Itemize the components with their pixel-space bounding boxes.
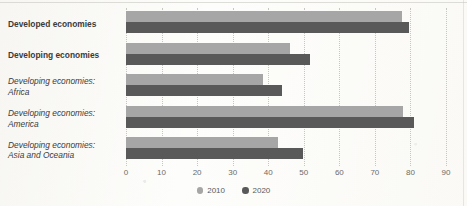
x-tick-20: 20	[193, 168, 202, 177]
category-label-text: Developing economies:America	[8, 108, 95, 129]
chart-legend: 20102020	[0, 186, 467, 195]
x-tick-10: 10	[157, 168, 166, 177]
category-label: Developing economies:America	[8, 103, 122, 135]
x-tick-70: 70	[370, 168, 379, 177]
bar-2010	[126, 106, 403, 117]
bar-2020	[126, 148, 303, 159]
category-label: Developing economies	[8, 40, 122, 72]
category-label-text: Developed economies	[8, 19, 96, 30]
category-label: Developed economies	[8, 8, 122, 40]
bar-2010	[126, 43, 290, 54]
x-tick-0: 0	[124, 168, 128, 177]
bar-group	[126, 8, 446, 40]
legend-label: 2020	[253, 186, 271, 195]
x-axis-tick-labels: 0102030405060708090	[126, 168, 446, 180]
gridline-90	[446, 8, 447, 166]
category-label-text: Developing economies:Asia and Oceania	[8, 140, 95, 161]
x-tick-80: 80	[406, 168, 415, 177]
x-tick-50: 50	[299, 168, 308, 177]
category-label-text: Developing economies:Africa	[8, 76, 95, 97]
legend-swatch-icon	[242, 187, 249, 194]
category-label-text: Developing economies	[8, 50, 99, 61]
bar-rows	[126, 8, 446, 166]
grouped-bar-chart: Developed economiesDeveloping economiesD…	[0, 0, 467, 206]
x-tick-40: 40	[264, 168, 273, 177]
bar-group	[126, 40, 446, 72]
legend-swatch-icon	[197, 187, 204, 194]
category-label: Developing economies:Asia and Oceania	[8, 134, 122, 166]
bar-2020	[126, 22, 409, 33]
plot-area	[126, 8, 446, 166]
bar-2020	[126, 117, 414, 128]
x-tick-60: 60	[335, 168, 344, 177]
legend-item-2010[interactable]: 2010	[197, 186, 225, 195]
bar-2010	[126, 137, 278, 148]
bar-2010	[126, 11, 402, 22]
x-tick-30: 30	[228, 168, 237, 177]
bar-group	[126, 103, 446, 135]
bar-2010	[126, 74, 263, 85]
category-label: Developing economies:Africa	[8, 71, 122, 103]
chart-screenshot: Developed economiesDeveloping economiesD…	[0, 0, 467, 206]
category-axis-labels: Developed economiesDeveloping economiesD…	[8, 8, 122, 166]
x-tick-90: 90	[442, 168, 451, 177]
legend-item-2020[interactable]: 2020	[242, 186, 270, 195]
bar-2020	[126, 85, 282, 96]
legend-label: 2010	[207, 186, 225, 195]
bar-2020	[126, 54, 310, 65]
bar-group	[126, 71, 446, 103]
bar-group	[126, 134, 446, 166]
